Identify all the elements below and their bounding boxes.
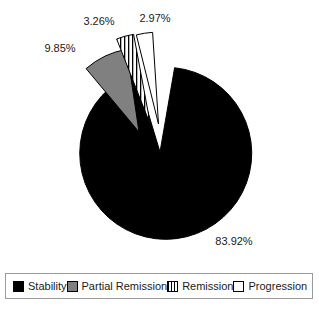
legend-item-stability[interactable]: Stability (13, 281, 67, 292)
label-partial-remission-pct: 9.85% (44, 42, 75, 54)
legend-label-remission: Remission (182, 281, 233, 292)
legend-label-progression: Progression (248, 281, 307, 292)
legend-swatch-partial-remission-icon (67, 281, 78, 292)
legend-label-partial-remission: Partial Remission (82, 281, 168, 292)
legend-swatch-remission-icon (167, 281, 178, 292)
legend-swatch-progression-icon (233, 281, 244, 292)
legend-label-stability: Stability (28, 281, 67, 292)
chart-legend: Stability Partial Remission Remission Pr… (5, 273, 313, 299)
label-progression-pct: 2.97% (139, 12, 170, 24)
pie-slice-stability[interactable] (80, 68, 252, 240)
pie-chart-svg: 83.92% 9.85% 3.26% 2.97% (0, 0, 319, 270)
pie-chart-area: 83.92% 9.85% 3.26% 2.97% (0, 0, 319, 270)
label-stability-pct: 83.92% (215, 235, 253, 247)
legend-item-progression[interactable]: Progression (233, 281, 307, 292)
legend-item-partial-remission[interactable]: Partial Remission (67, 281, 168, 292)
legend-item-remission[interactable]: Remission (167, 281, 233, 292)
legend-swatch-stability-icon (13, 281, 24, 292)
label-remission-pct: 3.26% (83, 15, 114, 27)
